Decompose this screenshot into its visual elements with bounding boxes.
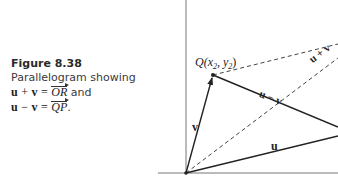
label-Q: Q(x2, y2) [195,55,236,71]
point-O [184,171,188,175]
label-u: u [271,139,278,153]
label-u-minus-v: u − v [258,87,285,107]
parallelogram-diagram: Q(x2, y2) v u u − v u + v [0,0,338,176]
vector-v [186,78,212,173]
vector-u [186,136,338,173]
label-u-plus-v: u + v [306,41,332,65]
point-Q [211,73,215,77]
label-v: v [192,120,198,134]
diagonal-u-plus-v [186,58,338,173]
